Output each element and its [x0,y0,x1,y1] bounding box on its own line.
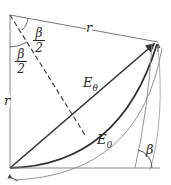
e-sub: 0 [107,140,113,150]
r-top-label: r [86,21,92,34]
beta-label: β [146,143,154,156]
e-zero-label: E0 [97,133,112,150]
half-angle-top-label: β 2 [33,27,45,54]
frac-num: β [36,26,43,40]
half-angle-left-label: β 2 [15,48,27,75]
e-sub: θ [93,83,98,93]
e-main: E [97,132,107,147]
outer-thin-arc [14,48,162,180]
diagram-canvas: β 2 β 2 r r Eθ E0 β [0,0,171,185]
e-main: E [83,75,93,90]
frac-den: 2 [35,41,43,55]
e-theta-label: Eθ [83,76,98,93]
frac-num: β [18,47,25,61]
half-angle-arc-top [22,18,28,30]
frac-den: 2 [17,62,25,76]
r-left-label: r [4,94,10,107]
